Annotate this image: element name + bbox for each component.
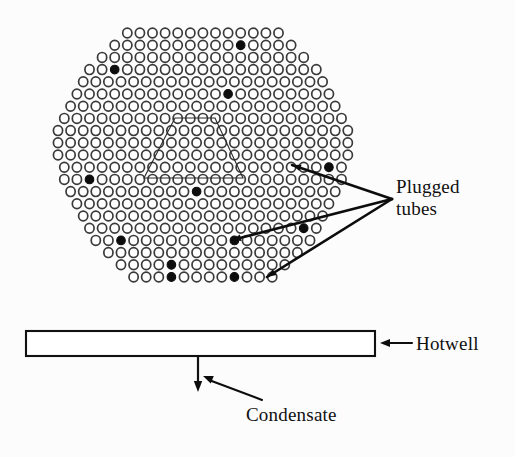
tube xyxy=(312,223,321,233)
tube xyxy=(217,272,226,282)
tube xyxy=(268,150,277,160)
tube xyxy=(98,162,107,172)
tube xyxy=(249,40,258,50)
plugged-tube xyxy=(236,41,245,50)
tube xyxy=(192,101,201,111)
tube xyxy=(91,126,100,136)
tube xyxy=(98,53,107,63)
tube xyxy=(305,138,314,148)
tube xyxy=(217,187,226,197)
tube xyxy=(230,77,239,87)
tube xyxy=(230,126,239,136)
tube xyxy=(110,89,119,99)
hotwell-pointer-arrow xyxy=(380,339,412,347)
tube xyxy=(104,236,113,246)
tube xyxy=(305,77,314,87)
plugged-tube xyxy=(85,175,94,184)
tube xyxy=(255,260,264,270)
tube xyxy=(249,89,258,99)
tube xyxy=(186,162,195,172)
tube xyxy=(305,150,314,160)
tube xyxy=(293,126,302,136)
tube xyxy=(287,89,296,99)
tube xyxy=(79,126,88,136)
tube xyxy=(161,89,170,99)
tube xyxy=(135,89,144,99)
tube xyxy=(148,65,157,75)
tube xyxy=(192,211,201,221)
tube xyxy=(299,199,308,209)
plugged-tube xyxy=(299,224,308,233)
tube xyxy=(179,248,188,258)
tube xyxy=(148,28,157,38)
tube xyxy=(217,77,226,87)
tube xyxy=(274,65,283,75)
tube xyxy=(135,40,144,50)
tube xyxy=(280,138,289,148)
tube xyxy=(236,175,245,185)
tube xyxy=(343,138,352,148)
tube xyxy=(217,101,226,111)
tube xyxy=(154,260,163,270)
tube xyxy=(230,187,239,197)
tube xyxy=(343,150,352,160)
tube xyxy=(98,199,107,209)
tube xyxy=(53,126,62,136)
condensate-leader-line xyxy=(209,380,262,400)
tube xyxy=(85,223,94,233)
tube xyxy=(148,199,157,209)
tube xyxy=(198,162,207,172)
tube xyxy=(280,101,289,111)
tube xyxy=(261,175,270,185)
tube xyxy=(135,28,144,38)
tube xyxy=(230,248,239,258)
tube xyxy=(116,101,125,111)
tube xyxy=(135,65,144,75)
tube xyxy=(224,175,233,185)
tube xyxy=(173,28,182,38)
tube xyxy=(72,199,81,209)
tube xyxy=(179,236,188,246)
tube xyxy=(205,138,214,148)
tube xyxy=(293,77,302,87)
tube xyxy=(192,236,201,246)
tube xyxy=(173,199,182,209)
tube xyxy=(255,211,264,221)
tube xyxy=(154,77,163,87)
tube xyxy=(280,248,289,258)
tube xyxy=(123,40,132,50)
tube xyxy=(274,89,283,99)
tube xyxy=(255,101,264,111)
tube xyxy=(274,199,283,209)
plugged-tube xyxy=(117,236,126,245)
plugged-tube xyxy=(167,273,176,282)
tube xyxy=(148,40,157,50)
tube xyxy=(224,65,233,75)
tube xyxy=(85,65,94,75)
tube xyxy=(205,187,214,197)
tube xyxy=(249,199,258,209)
tube xyxy=(154,187,163,197)
tube xyxy=(154,236,163,246)
tube xyxy=(110,53,119,63)
tube xyxy=(104,211,113,221)
tube xyxy=(255,272,264,282)
tube xyxy=(173,162,182,172)
tube xyxy=(242,77,251,87)
tube xyxy=(261,162,270,172)
tube xyxy=(192,138,201,148)
tube xyxy=(135,175,144,185)
tube xyxy=(236,114,245,124)
tube xyxy=(261,40,270,50)
tube xyxy=(312,65,321,75)
tube xyxy=(343,126,352,136)
tube xyxy=(324,199,333,209)
tube xyxy=(116,150,125,160)
tube xyxy=(154,272,163,282)
tube xyxy=(129,138,138,148)
tube xyxy=(104,101,113,111)
tube xyxy=(66,138,75,148)
tube xyxy=(116,187,125,197)
tube xyxy=(104,138,113,148)
tube xyxy=(91,187,100,197)
